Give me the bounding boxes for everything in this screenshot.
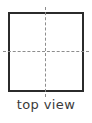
view-caption-label: top view [0, 97, 92, 112]
vertical-centerline [45, 7, 46, 97]
horizontal-centerline [3, 51, 89, 52]
top-view-square-outline [8, 12, 84, 92]
top-view-figure: top view [0, 0, 92, 123]
